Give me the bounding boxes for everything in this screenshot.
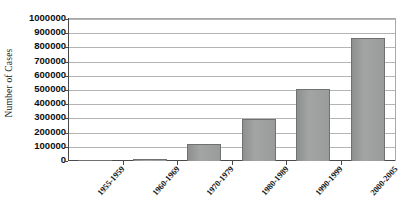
y-axis-tick-mark <box>64 62 68 63</box>
x-axis-tick-label: 2000-2005 <box>368 164 399 197</box>
y-axis-tick-mark <box>64 76 68 77</box>
y-axis-tick-mark <box>64 118 68 119</box>
x-axis-tick-label: 1980-1989 <box>259 164 290 197</box>
y-axis-tick-label: 400000 <box>16 98 66 108</box>
bar <box>296 89 330 161</box>
y-axis-tick-mark <box>64 133 68 134</box>
bar-chart: Number of Cases 010000020000030000040000… <box>0 0 410 222</box>
bars-layer <box>68 19 395 161</box>
y-axis-tick-label: 0 <box>16 155 66 165</box>
y-axis-tick-label: 500000 <box>16 84 66 94</box>
y-axis-tick-mark <box>64 47 68 48</box>
y-axis-tick-mark <box>64 19 68 20</box>
plot-area <box>68 18 396 161</box>
y-axis-tick-mark <box>64 33 68 34</box>
x-axis-tick-label: 1970-1979 <box>204 164 235 197</box>
y-axis-tick-mark <box>64 90 68 91</box>
y-axis-tick-label: 800000 <box>16 42 66 52</box>
y-axis-tick-label: 700000 <box>16 56 66 66</box>
y-axis-title-text: Number of Cases <box>4 48 14 117</box>
y-axis-tick-mark <box>64 104 68 105</box>
y-axis-tick-label: 300000 <box>16 113 66 123</box>
bar <box>242 119 276 161</box>
y-axis-tick-label: 100000 <box>16 141 66 151</box>
y-axis-tick-label: 600000 <box>16 70 66 80</box>
x-axis-tick-label: 1955-1959 <box>95 164 126 197</box>
x-axis-tick-label: 1990-1999 <box>313 164 344 197</box>
y-axis-tick-label: 200000 <box>16 127 66 137</box>
x-axis-tick-label: 1960-1969 <box>150 164 181 197</box>
bar <box>351 38 385 161</box>
x-axis-tick-labels: 1955-19591960-19691970-19791980-19891990… <box>68 160 410 222</box>
y-axis-tick-label: 1000000 <box>16 13 66 23</box>
y-axis-tick-label: 900000 <box>16 27 66 37</box>
y-axis-tick-mark <box>64 147 68 148</box>
y-axis-tick-labels: 0100000200000300000400000500000600000700… <box>16 12 66 166</box>
bar <box>187 144 221 161</box>
